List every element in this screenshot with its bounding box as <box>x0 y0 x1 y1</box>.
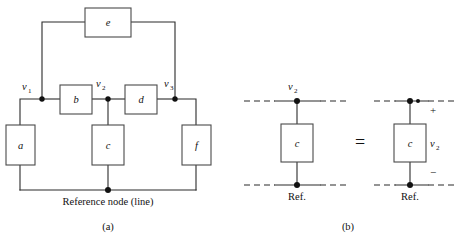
equals-sign: = <box>355 132 365 152</box>
element-d-label: d <box>138 94 144 105</box>
panel-b-left-node-label-v2: v 2 <box>288 81 298 95</box>
figure-container: e b d a c f v 1 v 2 v 3 Reference node (… <box>0 0 459 242</box>
node-dot-v2 <box>105 96 110 101</box>
element-c-label: c <box>106 140 111 151</box>
panel-b-right-voltage-label-v2: v 2 <box>430 138 440 152</box>
plus-sign: + <box>430 104 436 116</box>
wire-v1-down-to-a <box>20 99 42 125</box>
panel-b-right-top-node-dot-alt <box>416 99 420 103</box>
node-label-v1: v 1 <box>22 81 32 95</box>
panel-a-caption: (a) <box>102 221 114 233</box>
panel-b-left-top-node-dot <box>294 98 300 104</box>
node-label-v2-base: v <box>96 78 101 89</box>
reference-node-label: Reference node (line) <box>63 196 154 208</box>
panel-b-right-bottom-node-dot <box>407 182 413 188</box>
minus-sign: − <box>430 166 436 178</box>
node-label-v1-base: v <box>22 81 27 92</box>
panel-b-right-element-label: c <box>408 138 413 149</box>
panel-b-left-ref-label: Ref. <box>288 191 306 202</box>
node-dot-v1 <box>39 96 44 101</box>
panel-b-right-top-node-dot <box>407 98 413 104</box>
node-dot-v3 <box>172 96 177 101</box>
panel-b-left-bottom-node-dot <box>294 182 300 188</box>
wire-v3-down-to-f <box>175 99 196 125</box>
panel-a: e b d a c f v 1 v 2 v 3 Reference node (… <box>6 8 211 233</box>
panel-b-left-node-label-v2-sub: 2 <box>294 87 298 95</box>
element-b-label: b <box>73 94 78 105</box>
panel-b-left-node-label-v2-base: v <box>288 81 293 92</box>
panel-b-right-voltage-label-v2-sub: 2 <box>436 144 440 152</box>
node-label-v2-sub: 2 <box>102 84 106 92</box>
node-label-v1-sub: 1 <box>28 87 32 95</box>
element-e-label: e <box>106 17 111 28</box>
panel-b-left-element-label: c <box>295 138 300 149</box>
circuit-figure: e b d a c f v 1 v 2 v 3 Reference node (… <box>0 0 459 242</box>
panel-b-right-ref-label: Ref. <box>401 191 419 202</box>
node-label-v2: v 2 <box>96 78 106 92</box>
panel-b-right: c + − v 2 Ref. <box>374 98 455 202</box>
node-label-v3-base: v <box>164 78 169 89</box>
panel-b: c v 2 Ref. = <box>244 81 455 233</box>
node-label-v3-sub: 3 <box>170 84 174 92</box>
element-a-label: a <box>18 140 23 151</box>
node-label-v3: v 3 <box>164 78 174 92</box>
panel-b-left: c v 2 Ref. <box>244 81 348 202</box>
panel-b-caption: (b) <box>342 221 355 233</box>
panel-b-right-voltage-label-v2-base: v <box>430 138 435 149</box>
node-dot-reference <box>105 187 111 193</box>
